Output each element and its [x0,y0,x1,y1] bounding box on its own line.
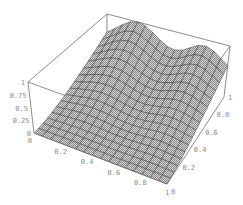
y-tick-label: 0.4 [194,146,207,154]
z-axis-ticks: 00.250.50.751 [10,79,31,138]
y-tick-label: 1 [228,94,232,102]
x-tick-label: 0 [28,137,32,145]
surface-plot: 00.250.50.751 00.20.40.60.81 00.20.40.60… [0,0,243,205]
y-tick-label: 0.2 [182,164,195,172]
y-tick-label: 0.8 [217,111,230,119]
y-tick-label: 0 [171,188,175,196]
x-tick-label: 0.2 [54,148,67,156]
x-tick-label: 0.6 [107,169,120,177]
y-tick-label: 0.6 [205,129,218,137]
z-tick-label: 1 [21,79,25,87]
box-left-vertical [28,82,34,133]
x-tick-label: 1 [165,189,169,197]
x-tick-label: 0.4 [81,158,94,166]
surface-mesh [34,22,228,184]
z-tick-label: 0.25 [13,117,30,125]
x-tick-label: 0.8 [134,179,147,187]
z-tick-label: 0.75 [10,92,27,100]
z-tick-label: 0.5 [15,105,28,113]
